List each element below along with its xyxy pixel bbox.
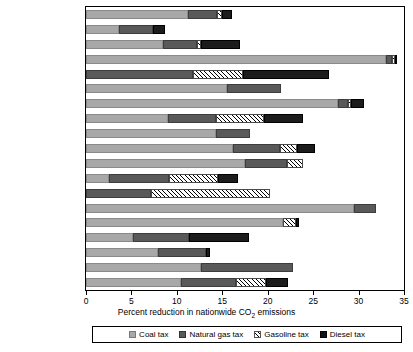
bar-segment-gas [201,263,293,272]
bar-segment-coal [86,174,109,183]
chart-row: Turkey [86,245,404,260]
bar-segment-gas [158,248,206,257]
bar-segment-gasoline [193,70,243,79]
bar-segment-gasoline [280,144,297,153]
stacked-bar [86,248,210,257]
bar-segment-coal [86,204,354,213]
bar-segment-gas [233,144,279,153]
chart-row: Poland [86,201,404,216]
bar-segment-coal [86,25,119,34]
bar-segment-coal [86,263,201,272]
bar-segment-gas [163,40,197,49]
bar-segment-gas [86,70,193,79]
bar-segment-diesel [395,55,397,64]
bar-segment-coal [86,114,168,123]
stacked-bar [86,278,288,287]
bar-segment-gas [227,84,282,93]
bar-segment-gas [338,99,348,108]
legend-label: Gasoline tax [264,330,308,339]
stacked-bar [86,70,329,79]
stacked-bar [86,218,299,227]
chart-row: Japan [86,141,404,156]
legend-swatch-coal-icon [129,331,136,338]
legend-item-coal[interactable]: Coal tax [129,330,168,339]
chart-row: Israel [86,126,404,141]
bar-segment-gasoline [151,189,271,198]
chart-row: United Kingdom [86,260,404,275]
stacked-bar [86,144,315,153]
chart-row: Egypt [86,67,404,82]
bar-segment-coal [86,278,181,287]
x-axis-tick-label: 10 [172,296,181,306]
stacked-bar [86,233,249,242]
chart-row: Australia [86,7,404,22]
legend-item-gas[interactable]: Natural gas tax [179,330,243,339]
x-axis: 05101520253035 [85,291,405,292]
bar-segment-diesel [264,114,303,123]
x-axis-tick-label: 5 [129,296,134,306]
bar-segment-gas [245,159,287,168]
bar-segment-gas [133,233,188,242]
stacked-bar [86,25,165,34]
legend-label: Coal tax [139,330,168,339]
chart-row: Mexico [86,171,404,186]
bar-segment-diesel [296,218,299,227]
chart-row: Nigeria [86,186,404,201]
bar-segment-gas [216,129,251,138]
bar-segment-gas [188,10,217,19]
chart-row: Indonesia [86,111,404,126]
x-axis-tick-label: 20 [263,296,272,306]
stacked-bar [86,40,240,49]
stacked-bar [86,189,270,198]
bar-segment-gasoline [169,174,218,183]
legend-item-gasoline[interactable]: Gasoline tax [254,330,308,339]
legend-swatch-gas-icon [179,331,186,338]
chart-legend: Coal taxNatural gas taxGasoline taxDiese… [92,326,402,343]
x-axis-tick-label: 25 [308,296,317,306]
x-axis-tick-label: 0 [84,296,89,306]
bar-segment-diesel [266,278,288,287]
x-axis-title-suffix: emissions [255,307,295,317]
stacked-bar [86,159,303,168]
x-axis-tick [177,291,178,295]
x-axis-title: Percent reduction in nationwide CO2 emis… [0,307,413,319]
bar-segment-coal [86,159,245,168]
x-axis-tick [131,291,132,295]
stacked-bar [86,129,250,138]
bar-segment-coal [86,55,386,64]
stacked-bar [86,174,238,183]
plot-area: AustraliaBrazilChileChinaEgyptGermanyInd… [85,6,405,291]
bar-segment-gas [86,189,151,198]
chart-row: United States [86,275,404,290]
bar-segment-coal [86,99,338,108]
bar-segment-diesel [351,99,364,108]
bar-segment-diesel [201,40,239,49]
chart-row: India [86,96,404,111]
chart-row: Brazil [86,22,404,37]
stacked-bar [86,263,293,272]
bar-segment-gasoline [216,114,264,123]
chart-row: South Africa [86,216,404,231]
bar-segment-diesel [297,144,315,153]
bar-segment-gasoline [283,218,296,227]
stacked-bar [86,204,376,213]
bar-segment-gas [109,174,169,183]
x-axis-tick [222,291,223,295]
x-axis-tick-label: 35 [399,296,408,306]
bar-segment-coal [86,218,283,227]
bar-segment-diesel [243,70,328,79]
chart-row: Kazakhstan [86,156,404,171]
bar-segment-diesel [189,233,249,242]
legend-item-diesel[interactable]: Diesel tax [320,330,365,339]
chart-row: China [86,52,404,67]
bar-segment-diesel [153,25,165,34]
x-axis-tick [404,291,405,295]
x-axis-title-prefix: Percent reduction in nationwide CO [118,307,252,317]
bar-segment-gas [119,25,154,34]
x-axis-tick-label: 30 [354,296,363,306]
bar-segment-diesel [218,174,238,183]
bar-segment-coal [86,233,133,242]
bar-segment-diesel [206,248,210,257]
x-axis-tick [359,291,360,295]
stacked-bar [86,99,364,108]
